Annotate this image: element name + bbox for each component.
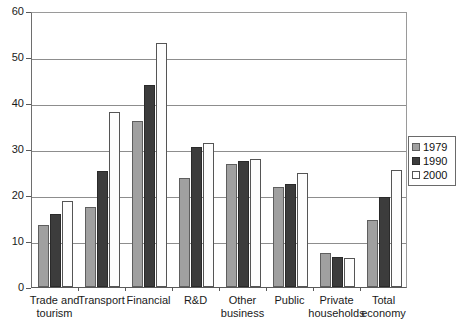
bar-group bbox=[79, 13, 126, 287]
x-axis-label-line2: economy bbox=[352, 307, 415, 320]
legend-label-2000: 2000 bbox=[423, 170, 447, 181]
legend-label-1979: 1979 bbox=[423, 142, 447, 153]
bar-group bbox=[32, 13, 79, 287]
y-tick-label-10: 10 bbox=[0, 236, 24, 247]
legend-swatch-icon-1990 bbox=[412, 157, 420, 165]
legend-item-1990[interactable]: 1990 bbox=[412, 154, 453, 168]
bar-1990[interactable] bbox=[332, 257, 343, 287]
legend-item-2000[interactable]: 2000 bbox=[412, 168, 453, 182]
y-tick-label-40: 40 bbox=[0, 98, 24, 109]
bar-group bbox=[314, 13, 361, 287]
bar-1979[interactable] bbox=[85, 207, 96, 287]
legend: 1979 1990 2000 bbox=[408, 136, 456, 186]
legend-item-1979[interactable]: 1979 bbox=[412, 140, 453, 154]
bar-chart: 0102030405060 Trade andtourismTransportF… bbox=[0, 0, 461, 336]
bar-1979[interactable] bbox=[38, 225, 49, 287]
x-axis-label-line2: business bbox=[211, 307, 274, 320]
y-tick-label-60: 60 bbox=[0, 6, 24, 17]
bar-2000[interactable] bbox=[391, 170, 402, 287]
bar-1979[interactable] bbox=[367, 220, 378, 287]
bar-2000[interactable] bbox=[250, 159, 261, 287]
y-tick-label-30: 30 bbox=[0, 144, 24, 155]
legend-swatch-icon-1979 bbox=[412, 143, 420, 151]
bar-group bbox=[220, 13, 267, 287]
bar-1990[interactable] bbox=[379, 197, 390, 287]
plot-area bbox=[31, 12, 407, 288]
bar-1990[interactable] bbox=[285, 184, 296, 288]
bar-1979[interactable] bbox=[320, 253, 331, 287]
x-axis-label-line1: Total bbox=[352, 294, 415, 307]
bar-1990[interactable] bbox=[238, 161, 249, 288]
x-tick-mark bbox=[313, 287, 314, 291]
bar-1979[interactable] bbox=[132, 121, 143, 287]
bar-2000[interactable] bbox=[109, 112, 120, 287]
y-tick-mark-0 bbox=[26, 288, 31, 289]
x-tick-mark bbox=[172, 287, 173, 291]
bar-group bbox=[126, 13, 173, 287]
bar-1990[interactable] bbox=[191, 147, 202, 287]
legend-swatch-icon-2000 bbox=[412, 171, 420, 179]
x-tick-mark bbox=[78, 287, 79, 291]
bar-2000[interactable] bbox=[344, 258, 355, 287]
x-tick-mark bbox=[360, 287, 361, 291]
y-tick-label-50: 50 bbox=[0, 52, 24, 63]
x-tick-mark bbox=[266, 287, 267, 291]
x-axis-label-8: Totaleconomy bbox=[352, 294, 415, 320]
bar-1979[interactable] bbox=[179, 178, 190, 287]
x-axis-label-line2: tourism bbox=[23, 307, 86, 320]
bar-1990[interactable] bbox=[50, 214, 61, 287]
bar-2000[interactable] bbox=[297, 173, 308, 287]
bar-group bbox=[267, 13, 314, 287]
y-tick-label-0: 0 bbox=[0, 282, 24, 293]
bar-1979[interactable] bbox=[226, 164, 237, 287]
x-tick-mark bbox=[125, 287, 126, 291]
bar-group bbox=[361, 13, 408, 287]
legend-label-1990: 1990 bbox=[423, 156, 447, 167]
bar-2000[interactable] bbox=[62, 201, 73, 287]
bar-group bbox=[173, 13, 220, 287]
bar-2000[interactable] bbox=[203, 143, 214, 287]
bar-1979[interactable] bbox=[273, 187, 284, 287]
bar-2000[interactable] bbox=[156, 43, 167, 287]
bar-1990[interactable] bbox=[97, 171, 108, 287]
x-tick-mark bbox=[219, 287, 220, 291]
y-tick-label-20: 20 bbox=[0, 190, 24, 201]
bar-1990[interactable] bbox=[144, 85, 155, 287]
